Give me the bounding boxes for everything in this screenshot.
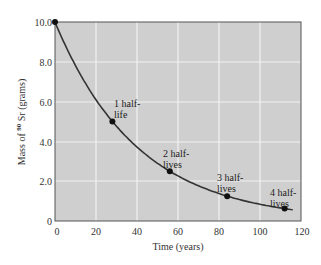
y-tick-8: 8.0 (40, 57, 53, 68)
y-tick-6: 6.0 (40, 97, 53, 108)
y-tick-10: 10.0 (35, 17, 53, 28)
x-axis-ticks: 0 20 40 60 80 100 120 (55, 226, 310, 237)
y-tick-0: 0 (47, 216, 52, 227)
x-tick-100: 100 (253, 226, 268, 237)
annotation-1-line2: life (114, 109, 128, 120)
annotation-4-line1: 4 half- (270, 187, 296, 198)
data-point-3 (224, 193, 230, 199)
y-axis-ticks: 0 2.0 4.0 6.0 8.0 10.0 (35, 17, 53, 227)
half-life-chart: 1 half- life 2 half- lives 3 half- lives… (0, 0, 321, 265)
x-tick-0: 0 (55, 226, 60, 237)
x-tick-40: 40 (132, 226, 142, 237)
x-axis-label: Time (years) (152, 241, 203, 253)
x-tick-80: 80 (214, 226, 224, 237)
annotation-3-line1: 3 half- (217, 172, 243, 183)
data-point-0 (52, 19, 58, 25)
annotation-4-line2: lives (270, 198, 289, 209)
y-tick-4: 4.0 (40, 137, 53, 148)
x-tick-20: 20 (91, 226, 101, 237)
y-tick-2: 2.0 (40, 176, 53, 187)
annotation-2-line2: lives (163, 159, 182, 170)
annotation-3-line2: lives (217, 183, 236, 194)
y-axis-label: Mass of 90 Sr (grams) (15, 79, 28, 165)
annotation-2-line1: 2 half- (163, 148, 189, 159)
x-tick-120: 120 (295, 226, 310, 237)
x-tick-60: 60 (173, 226, 183, 237)
annotation-1-line1: 1 half- (114, 98, 140, 109)
